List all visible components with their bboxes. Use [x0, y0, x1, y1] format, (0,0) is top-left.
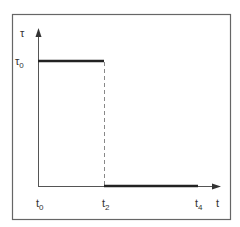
x-axis-label: t — [216, 197, 219, 209]
y-axis-label: τ — [20, 27, 25, 39]
tick-t4: t4 — [195, 197, 203, 212]
tick-t2: t2 — [102, 197, 110, 212]
tau0-label: τ0 — [15, 55, 24, 70]
x-axis-arrow-icon — [212, 184, 221, 190]
frame-border — [13, 15, 231, 220]
step-diagram: τ τ0 t t0 t2 t4 — [0, 0, 240, 227]
y-axis-arrow-icon — [36, 28, 42, 37]
tick-t0: t0 — [36, 197, 44, 212]
